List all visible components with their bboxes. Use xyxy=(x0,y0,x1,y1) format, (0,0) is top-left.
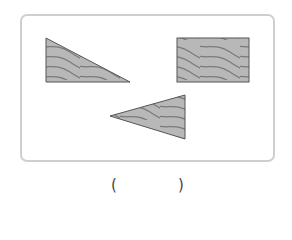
right-paren: ) xyxy=(178,176,184,194)
triangle-shape xyxy=(110,95,185,139)
left-paren: ( xyxy=(111,176,117,194)
answer-blank[interactable]: ( ) xyxy=(0,176,292,200)
right-triangle-shape xyxy=(46,38,130,82)
rectangle-shape xyxy=(177,38,249,82)
